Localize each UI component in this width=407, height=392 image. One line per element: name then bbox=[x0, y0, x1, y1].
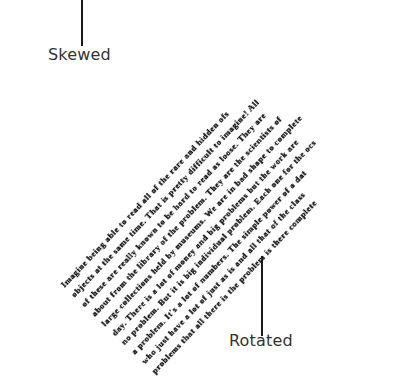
rotated-label: Rotated bbox=[229, 331, 293, 350]
skewed-leader-line bbox=[81, 0, 83, 46]
skewed-label: Skewed bbox=[48, 45, 111, 64]
rotated-leader-line bbox=[261, 256, 263, 336]
rotated-text-block: Imagine being able to read all of the ra… bbox=[58, 50, 379, 378]
